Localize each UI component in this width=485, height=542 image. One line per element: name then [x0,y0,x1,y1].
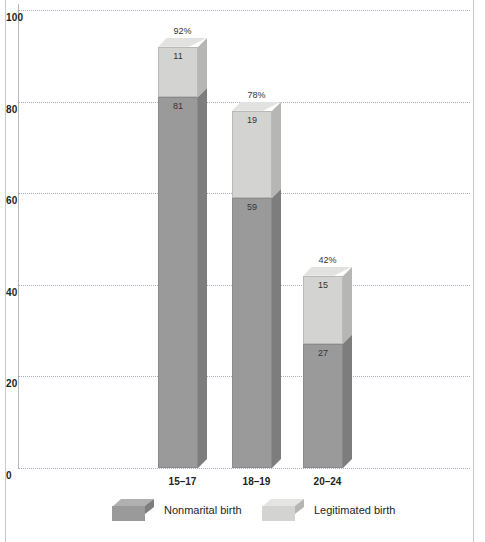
y-tick-label-60: 60 [6,195,40,206]
gridline-60 [18,193,470,194]
bar-value-label-legitimated-15–17: 11 [158,51,198,61]
bar-front-face [158,47,198,97]
bar-segment-legitimated-18–19[interactable] [232,111,272,198]
legend-label-nonmarital: Nonmarital birth [164,504,242,516]
bar-value-label-nonmarital-18–19: 59 [232,202,272,212]
frame-border-right [473,0,474,542]
bar-side-face [198,88,207,468]
y-tick-label-80: 80 [6,104,40,115]
chart-container: 100806040200 92%118115–1778%195918–1942%… [0,0,485,542]
legend-label-legitimated: Legitimated birth [314,504,395,516]
bar-total-label-18–19: 78% [232,90,281,100]
y-tick-label-40: 40 [6,287,40,298]
bar-top-face [232,102,281,111]
gridline-80 [18,102,470,103]
bar-top-face [158,38,207,47]
gridline-100 [18,10,470,11]
bar-segment-legitimated-15–17[interactable] [158,47,198,97]
bar-segment-nonmarital-15–17[interactable] [158,97,198,468]
x-axis-label-15–17: 15–17 [150,476,215,487]
bar-side-face [198,38,207,97]
bar-side-face [343,267,352,345]
y-tick-label-20: 20 [6,378,40,389]
bar-side-face [343,335,352,468]
gridline-20 [18,376,470,377]
legend-swatch-icon-nonmarital [112,499,154,521]
bar-segment-nonmarital-20–24[interactable] [303,344,343,468]
gridline-0 [18,468,470,469]
bar-side-face [272,102,281,198]
bar-value-label-legitimated-18–19: 19 [232,115,272,125]
x-axis-label-20–24: 20–24 [295,476,360,487]
x-axis-label-18–19: 18–19 [224,476,289,487]
bar-segment-legitimated-20–24[interactable] [303,276,343,345]
y-axis-line [18,4,19,468]
bar-front-face [232,198,272,468]
legend-swatch-icon-legitimated [262,499,304,521]
frame-border-left [5,0,6,542]
bar-group-20–24[interactable]: 42%152720–24 [0,0,485,542]
bar-front-face [303,344,343,468]
bar-total-label-20–24: 42% [303,255,352,265]
bar-value-label-nonmarital-20–24: 27 [303,348,343,358]
chart-legend: Nonmarital birth Legitimated birth [0,495,485,529]
bar-front-face [232,111,272,198]
gridline-40 [18,285,470,286]
bar-segment-nonmarital-18–19[interactable] [232,198,272,468]
y-tick-label-100: 100 [6,12,40,23]
y-tick-label-0: 0 [6,470,40,481]
bar-front-face [303,276,343,345]
bar-group-18–19[interactable]: 78%195918–19 [0,0,485,542]
bar-side-face [272,189,281,468]
bar-group-15–17[interactable]: 92%118115–17 [0,0,485,542]
bar-top-face [303,267,352,276]
bar-front-face [158,97,198,468]
bar-total-label-15–17: 92% [158,26,207,36]
